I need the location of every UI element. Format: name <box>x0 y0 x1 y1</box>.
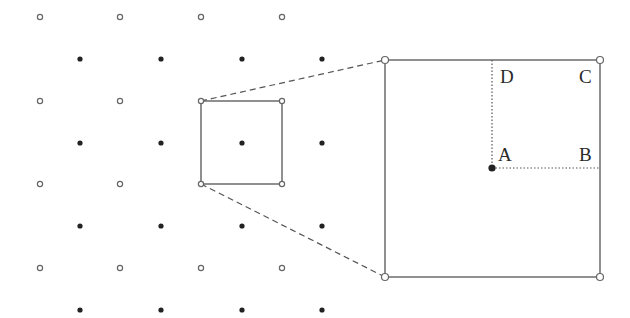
filled-lattice-point <box>239 307 244 312</box>
open-lattice-point <box>198 265 203 270</box>
label-b: B <box>579 144 592 165</box>
big-square-corner-bl <box>382 274 389 281</box>
square-corner-markers <box>198 57 603 281</box>
open-lattice-point <box>37 14 42 19</box>
filled-lattice-point <box>77 140 82 145</box>
filled-lattice-point <box>158 56 163 61</box>
label-a: A <box>498 144 512 165</box>
diagram-canvas: A B C D <box>0 0 630 318</box>
filled-lattice-point <box>319 223 324 228</box>
point-a-marker <box>488 164 495 171</box>
filled-lattice-point <box>158 140 163 145</box>
open-lattice-point <box>198 14 203 19</box>
open-lattice-point <box>37 181 42 186</box>
big-square-corner-br <box>597 274 604 281</box>
filled-lattice-point <box>77 223 82 228</box>
projection-line-bottom <box>201 184 385 277</box>
big-square-corner-tr <box>597 57 604 64</box>
filled-lattice-point <box>158 223 163 228</box>
open-lattice-point <box>117 265 122 270</box>
open-lattice-point <box>117 14 122 19</box>
open-lattice-point <box>279 265 284 270</box>
small-square-corner-br <box>279 181 284 186</box>
filled-lattice-point <box>77 307 82 312</box>
open-lattice-point <box>37 265 42 270</box>
filled-lattice-point <box>319 140 324 145</box>
filled-lattice-point <box>239 223 244 228</box>
small-square-corner-tl <box>198 98 203 103</box>
big-square-corner-tl <box>382 57 389 64</box>
open-lattice-point <box>279 14 284 19</box>
filled-lattice-point <box>239 56 244 61</box>
filled-lattice-point <box>319 56 324 61</box>
filled-lattice-point <box>158 307 163 312</box>
label-c: C <box>579 66 592 87</box>
label-d: D <box>500 66 514 87</box>
small-square-corner-tr <box>279 98 284 103</box>
filled-lattice-point <box>319 307 324 312</box>
open-lattice-point <box>117 98 122 103</box>
filled-lattice-point <box>77 56 82 61</box>
projection-line-top <box>201 60 385 101</box>
lattice-diagram: A B C D <box>0 0 630 318</box>
small-square-corner-bl <box>198 181 203 186</box>
open-lattice-point <box>117 181 122 186</box>
filled-lattice-point <box>239 140 244 145</box>
open-lattice-point <box>37 98 42 103</box>
